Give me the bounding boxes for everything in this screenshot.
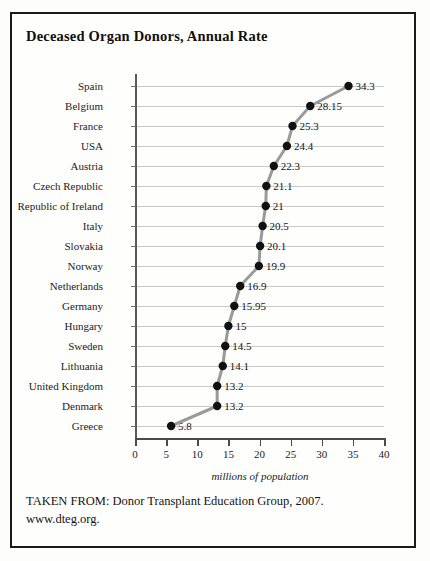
y-axis-tick [131,306,136,307]
gridlines [135,76,384,436]
data-value-label: 15 [235,320,246,332]
data-value-label: 22.3 [281,160,300,172]
category-label: Austria [71,160,103,172]
y-axis-tick [131,86,136,87]
plot-area [135,76,384,436]
category-label: United Kingdom [29,380,103,392]
gridline [135,206,384,207]
gridline [135,226,384,227]
x-axis-tick-label: 25 [285,448,296,460]
gridline [135,86,384,87]
y-axis-line [135,74,137,438]
y-axis-tick [131,346,136,347]
gridline [135,346,384,347]
category-label: Greece [72,420,103,432]
gridline [135,386,384,387]
category-label: Belgium [65,100,103,112]
gridline [135,146,384,147]
x-axis-title: millions of population [135,470,385,482]
y-axis-tick [131,286,136,287]
y-axis-tick [131,146,136,147]
gridline [135,186,384,187]
data-value-label: 20.1 [267,240,286,252]
y-axis-tick [131,406,136,407]
category-label: Italy [83,220,103,232]
x-axis-tick [228,438,230,446]
x-axis-tick [260,438,262,446]
gridline [135,246,384,247]
data-value-label: 21 [273,200,284,212]
source-line-1: TAKEN FROM: Donor Transplant Education G… [26,492,324,510]
y-axis-tick [131,186,136,187]
category-label: Sweden [68,340,103,352]
category-label: Republic of Ireland [17,200,103,212]
gridline [135,126,384,127]
category-label: Denmark [62,400,103,412]
category-label: Spain [78,80,103,92]
y-axis-tick [131,226,136,227]
gridline [135,326,384,327]
x-axis-tick-label: 15 [223,448,234,460]
gridline [135,406,384,407]
data-value-label: 21.1 [273,180,292,192]
data-value-label: 15.95 [241,300,266,312]
data-value-label: 16.9 [247,280,266,292]
chart-title: Deceased Organ Donors, Annual Rate [26,28,268,45]
category-label: Netherlands [50,280,103,292]
gridline [135,106,384,107]
gridline [135,426,384,427]
y-axis-tick [131,426,136,427]
x-axis-tick [197,438,199,446]
data-value-label: 13.2 [224,400,243,412]
y-axis-tick [131,166,136,167]
data-value-label: 34.3 [356,80,375,92]
category-label: Norway [68,260,103,272]
data-value-label: 24.4 [294,140,313,152]
y-axis-tick [131,106,136,107]
figure-frame: Deceased Organ Donors, Annual Rate 05101… [10,12,416,548]
category-label: Germany [62,300,103,312]
page-canvas: Deceased Organ Donors, Annual Rate 05101… [0,0,430,561]
data-value-label: 14.1 [230,360,249,372]
category-label: Czech Republic [33,180,103,192]
x-axis-tick-label: 30 [316,448,327,460]
y-axis-tick [131,206,136,207]
y-axis-tick [131,126,136,127]
x-axis-tick [166,438,168,446]
category-label: USA [81,140,103,152]
source-attribution: TAKEN FROM: Donor Transplant Education G… [26,492,324,528]
y-axis-tick [131,366,136,367]
x-axis-tick-label: 35 [347,448,358,460]
gridline [135,366,384,367]
category-label: France [73,120,103,132]
x-axis-tick [322,438,324,446]
gridline [135,266,384,267]
y-axis-tick [131,386,136,387]
data-value-label: 19.9 [266,260,285,272]
data-value-label: 20.5 [270,220,289,232]
category-label: Lithuania [61,360,103,372]
data-value-label: 14.5 [232,340,251,352]
data-value-label: 13.2 [224,380,243,392]
x-axis-tick-label: 40 [379,448,390,460]
data-value-label: 28.15 [317,100,342,112]
x-axis-tick [135,438,137,446]
y-axis-tick [131,266,136,267]
x-axis-tick [384,438,386,446]
y-axis-tick [131,326,136,327]
category-label: Slovakia [65,240,104,252]
x-axis-tick-label: 0 [132,448,138,460]
x-axis-tick [353,438,355,446]
gridline [135,166,384,167]
data-value-label: 25.3 [299,120,318,132]
x-axis-tick-label: 10 [192,448,203,460]
source-line-2: www.dteg.org. [26,510,324,528]
x-axis-tick-label: 5 [163,448,169,460]
x-axis-tick-label: 20 [254,448,265,460]
data-value-label: 5.8 [178,420,192,432]
x-axis-tick [291,438,293,446]
y-axis-tick [131,246,136,247]
category-label: Hungary [65,320,104,332]
